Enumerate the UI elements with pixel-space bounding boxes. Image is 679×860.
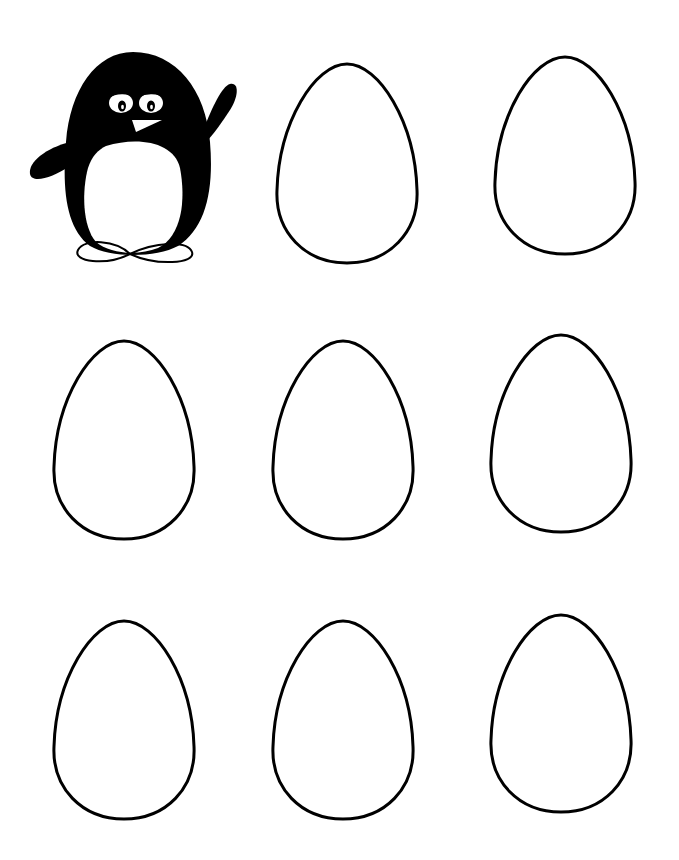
egg-outline-3 — [52, 339, 196, 541]
egg-outline-1 — [275, 62, 419, 265]
egg-outline-6 — [52, 619, 196, 821]
egg-outline-7 — [271, 619, 415, 821]
egg-outline-5 — [489, 333, 633, 534]
egg-outline-8 — [489, 613, 633, 814]
egg-outline-4 — [271, 339, 415, 541]
coloring-worksheet — [0, 0, 679, 860]
penguin-icon — [26, 50, 240, 272]
egg-outline-2 — [493, 55, 637, 256]
